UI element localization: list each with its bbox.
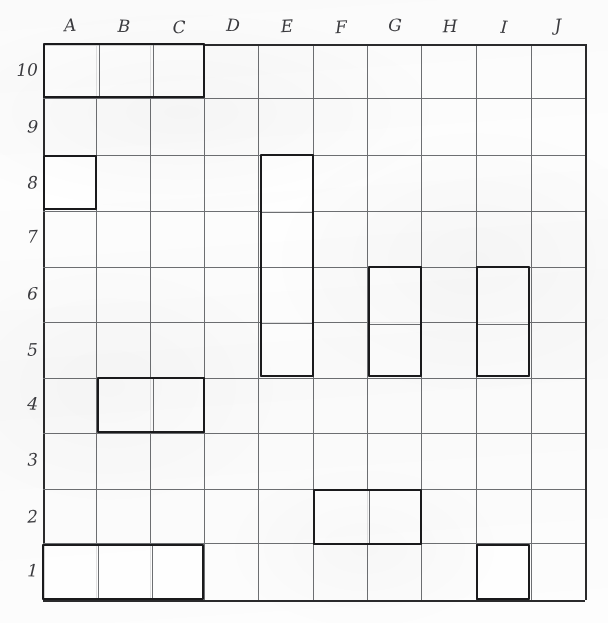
region-a8[interactable] [43, 155, 97, 211]
column-label-i: I [483, 18, 524, 37]
region-inner-divider-vertical [152, 546, 153, 598]
grid-line-horizontal [43, 98, 585, 99]
row-label-1: 1 [4, 562, 39, 580]
column-label-a: A [50, 16, 91, 35]
column-label-d: D [212, 16, 253, 35]
region-inner-divider-vertical [369, 491, 370, 543]
column-label-c: C [158, 18, 198, 36]
row-label-6: 6 [4, 285, 39, 303]
grid-line-horizontal [43, 155, 585, 156]
row-label-8: 8 [4, 174, 39, 192]
region-f2-g2[interactable] [313, 489, 421, 545]
row-label-9: 9 [4, 118, 39, 137]
region-inner-divider-vertical [99, 45, 100, 97]
region-i1[interactable] [476, 544, 530, 600]
region-inner-divider-vertical [153, 45, 154, 97]
row-label-5: 5 [4, 341, 38, 359]
column-label-j: J [538, 16, 579, 35]
row-label-7: 7 [4, 228, 39, 247]
region-inner-divider-horizontal [262, 323, 312, 324]
region-inner-divider-vertical [98, 546, 99, 598]
region-inner-divider-horizontal [370, 324, 420, 325]
row-label-3: 3 [4, 451, 39, 469]
region-g6-g5[interactable] [368, 266, 422, 377]
region-b4-c4[interactable] [97, 377, 205, 433]
grid-border-horizontal [43, 600, 585, 602]
row-label-2: 2 [4, 508, 39, 527]
region-i6-i5[interactable] [476, 266, 530, 377]
column-label-e: E [267, 17, 308, 36]
column-label-b: B [104, 17, 145, 35]
region-inner-divider-horizontal [478, 324, 528, 325]
row-label-10: 10 [4, 61, 38, 79]
column-label-h: H [429, 17, 469, 35]
region-e8-e5[interactable] [260, 154, 314, 376]
region-inner-divider-horizontal [262, 212, 312, 213]
grid-border-vertical [585, 44, 587, 600]
region-inner-divider-vertical [153, 379, 154, 431]
column-label-g: G [375, 16, 416, 34]
grid-line-horizontal [43, 211, 585, 212]
row-label-4: 4 [4, 395, 39, 414]
worksheet-sheet: ABCDEFGHIJ10987654321 [0, 0, 608, 623]
region-inner-divider-horizontal [262, 267, 312, 268]
grid-line-horizontal [43, 433, 585, 434]
region-a10-c10[interactable] [43, 43, 206, 99]
region-a1-c1[interactable] [42, 544, 205, 600]
column-label-f: F [321, 18, 362, 37]
